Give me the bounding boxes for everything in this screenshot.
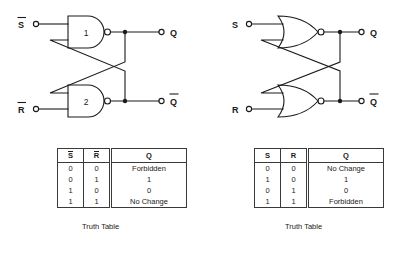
table-header-row: S R Q xyxy=(58,149,187,163)
rbar-label: R xyxy=(18,105,25,115)
header-cell-rbar: R xyxy=(84,149,111,163)
cell-rbar: 1 xyxy=(84,196,111,208)
crosscouple-q-to-gate2 xyxy=(50,32,125,93)
s-input-terminal xyxy=(246,21,251,26)
cell-r: 0 xyxy=(281,163,308,175)
q-label: Q xyxy=(370,28,377,38)
header-cell-q: Q xyxy=(111,149,187,163)
cell-sbar: 1 xyxy=(58,196,84,208)
cell-s: 1 xyxy=(255,174,281,185)
gate-1-number: 1 xyxy=(84,28,89,38)
table-row: 0 0 Forbidden xyxy=(58,163,187,175)
table-row: 0 0 No Change xyxy=(255,163,384,175)
nand-gate-1-bubble xyxy=(105,29,111,35)
cell-r: 1 xyxy=(281,196,308,208)
figure-page: S R Q Q 1 2 xyxy=(0,0,397,254)
nor-latch-diagram: S R Q Q xyxy=(198,0,397,135)
nor-truth-table: S R Q 0 0 No Change xyxy=(254,148,384,208)
cell-q: 0 xyxy=(308,185,384,196)
crosscouple-qbar-to-gate1 xyxy=(50,40,125,101)
cell-sbar: 0 xyxy=(58,163,84,175)
r-label: R xyxy=(232,105,239,115)
header-cell-sbar: S xyxy=(58,149,84,163)
cell-sbar: 1 xyxy=(58,185,84,196)
cell-rbar: 1 xyxy=(84,174,111,185)
table-row: 0 1 0 xyxy=(255,185,384,196)
table-row: 0 1 1 xyxy=(58,174,187,185)
truth-tables-area: S R Q 0 0 Forbidden xyxy=(0,135,397,254)
nor-truth-table-wrapper: S R Q 0 0 No Change xyxy=(254,148,384,208)
cell-q: 1 xyxy=(308,174,384,185)
nand-truth-table: S R Q 0 0 Forbidden xyxy=(57,148,187,208)
header-q-text: Q xyxy=(343,151,349,160)
header-sbar-text: S xyxy=(68,151,73,160)
cell-sbar: 0 xyxy=(58,174,84,185)
cell-r: 0 xyxy=(281,174,308,185)
circuit-diagrams: S R Q Q 1 2 xyxy=(0,0,397,135)
crosscouple-qbar-to-top-gate xyxy=(261,40,340,101)
qbar-output-terminal xyxy=(159,98,164,103)
q-label: Q xyxy=(170,28,177,38)
nand-gate-2-bubble xyxy=(105,98,111,104)
header-cell-s: S xyxy=(255,149,281,163)
crosscouple-q-to-bottom-gate xyxy=(261,32,340,93)
cell-s: 0 xyxy=(255,185,281,196)
nor-gate-bottom-bubble xyxy=(318,98,324,104)
q-output-terminal xyxy=(359,29,364,34)
nand-latch-diagram: S R Q Q 1 2 xyxy=(0,0,198,135)
header-cell-q: Q xyxy=(308,149,384,163)
table-row: 1 0 1 xyxy=(255,174,384,185)
cell-s: 1 xyxy=(255,196,281,208)
header-rbar-text: R xyxy=(94,151,99,160)
header-q-text: Q xyxy=(146,151,152,160)
cell-q: Forbidden xyxy=(111,163,187,175)
nand-table-caption: Truth Table xyxy=(82,222,119,231)
cell-q: No Change xyxy=(308,163,384,175)
nor-gate-top-bubble xyxy=(318,29,324,35)
cell-rbar: 0 xyxy=(84,163,111,175)
nor-gate-top-body xyxy=(278,16,318,48)
cell-q: No Change xyxy=(111,196,187,208)
s-label: S xyxy=(232,20,238,30)
cell-q: Forbidden xyxy=(308,196,384,208)
qbar-label: Q xyxy=(370,97,377,107)
qbar-label: Q xyxy=(170,97,177,107)
rbar-input-terminal xyxy=(33,106,38,111)
table-row: 1 1 No Change xyxy=(58,196,187,208)
header-r-text: R xyxy=(291,151,296,160)
q-output-terminal xyxy=(159,29,164,34)
gate-2-number: 2 xyxy=(84,97,89,107)
table-row: 1 0 0 xyxy=(58,185,187,196)
cell-rbar: 0 xyxy=(84,185,111,196)
cell-s: 0 xyxy=(255,163,281,175)
sbar-label: S xyxy=(18,20,24,30)
qbar-output-terminal xyxy=(359,98,364,103)
sbar-input-terminal xyxy=(33,21,38,26)
nor-gate-bottom-body xyxy=(278,85,318,117)
cell-q: 1 xyxy=(111,174,187,185)
nand-truth-table-wrapper: S R Q 0 0 Forbidden xyxy=(57,148,187,208)
r-input-terminal xyxy=(246,106,251,111)
table-row: 1 1 Forbidden xyxy=(255,196,384,208)
header-s-text: S xyxy=(265,151,270,160)
table-header-row: S R Q xyxy=(255,149,384,163)
cell-r: 1 xyxy=(281,185,308,196)
nor-table-caption: Truth Table xyxy=(285,222,322,231)
cell-q: 0 xyxy=(111,185,187,196)
header-cell-r: R xyxy=(281,149,308,163)
